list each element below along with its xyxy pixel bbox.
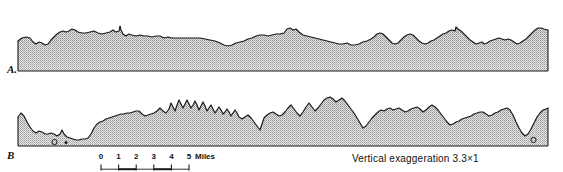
profile-drawing [0,0,563,172]
panel-label-a: A. [7,64,17,75]
scale-bar-unit-label: Miles [195,152,215,161]
scale-tick-label-0: 0 [99,152,103,161]
vertical-exaggeration-note: Vertical exaggeration 3.3×1 [352,154,479,164]
scale-tick-label-3: 3 [152,152,156,161]
scale-bar-ticks [95,163,235,172]
scale-bar: 012345 Miles [95,152,235,172]
scale-tick-label-2: 2 [134,152,138,161]
topographic-profile-figure: A. B 012345 Miles Vertical exaggeration … [0,0,563,172]
scale-tick-label-5: 5 [187,152,191,161]
town-dot-left-icon [65,141,68,144]
panel-label-b: B [7,150,14,161]
profile-a-group [18,26,548,71]
scale-tick-label-1: 1 [116,152,120,161]
profile-b-shading [18,97,548,146]
scale-tick-label-4: 4 [169,152,173,161]
profile-b-group [18,97,548,146]
